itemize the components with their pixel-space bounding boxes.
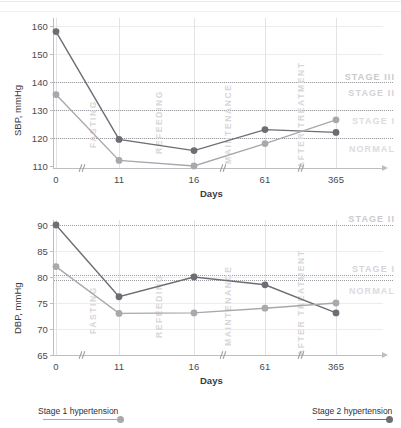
data-point[interactable]: [116, 293, 123, 300]
data-point[interactable]: [333, 116, 340, 123]
legend-stage1-line: [43, 419, 121, 420]
data-point[interactable]: [191, 309, 198, 316]
series-line-stage2: [56, 32, 336, 151]
legend-stage2-label: Stage 2 hypertension: [312, 406, 392, 416]
data-point[interactable]: [191, 163, 198, 170]
data-point[interactable]: [333, 309, 340, 316]
data-point[interactable]: [262, 140, 269, 147]
scan-artifact-line: [0, 1, 401, 2]
data-point[interactable]: [53, 263, 60, 270]
data-point[interactable]: [262, 305, 269, 312]
data-point[interactable]: [191, 274, 198, 281]
sbp-series-layer: [0, 6, 401, 206]
data-point[interactable]: [53, 222, 60, 229]
series-line-stage2: [56, 225, 336, 313]
data-point[interactable]: [116, 136, 123, 143]
dbp-chart-panel: DBP, mmHg 90 85 80 75 70 65 STAGE II STA…: [0, 206, 401, 396]
data-point[interactable]: [333, 129, 340, 136]
legend-stage1-label: Stage 1 hypertension: [38, 406, 118, 416]
data-point[interactable]: [262, 281, 269, 288]
data-point[interactable]: [116, 157, 123, 164]
data-point[interactable]: [53, 28, 60, 35]
legend-stage2-marker: [386, 416, 393, 423]
data-point[interactable]: [262, 126, 269, 133]
data-point[interactable]: [333, 300, 340, 307]
dbp-series-layer: [0, 206, 401, 396]
data-point[interactable]: [53, 91, 60, 98]
data-point[interactable]: [191, 147, 198, 154]
sbp-chart-panel: SBP, mmHg 160 150 140 130 120 110 STAGE …: [0, 6, 401, 206]
legend-stage1-marker: [117, 416, 124, 423]
data-point[interactable]: [116, 310, 123, 317]
chart-page: SBP, mmHg 160 150 140 130 120 110 STAGE …: [0, 0, 401, 428]
legend-stage2-line: [317, 419, 389, 420]
